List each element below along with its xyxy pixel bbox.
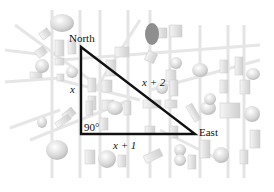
side-label-vertical: x: [70, 84, 75, 95]
diagram-canvas: North 90° East x x + 1 x + 2: [0, 0, 274, 192]
side-label-hypotenuse: x + 2: [142, 77, 165, 88]
side-label-horizontal: x + 1: [113, 140, 136, 151]
dark-tree: [145, 23, 159, 45]
city-map-background: [0, 0, 274, 192]
right-angle-label: 90°: [84, 122, 99, 133]
vertex-label-north: North: [69, 33, 95, 44]
vertex-label-east: East: [199, 127, 218, 138]
